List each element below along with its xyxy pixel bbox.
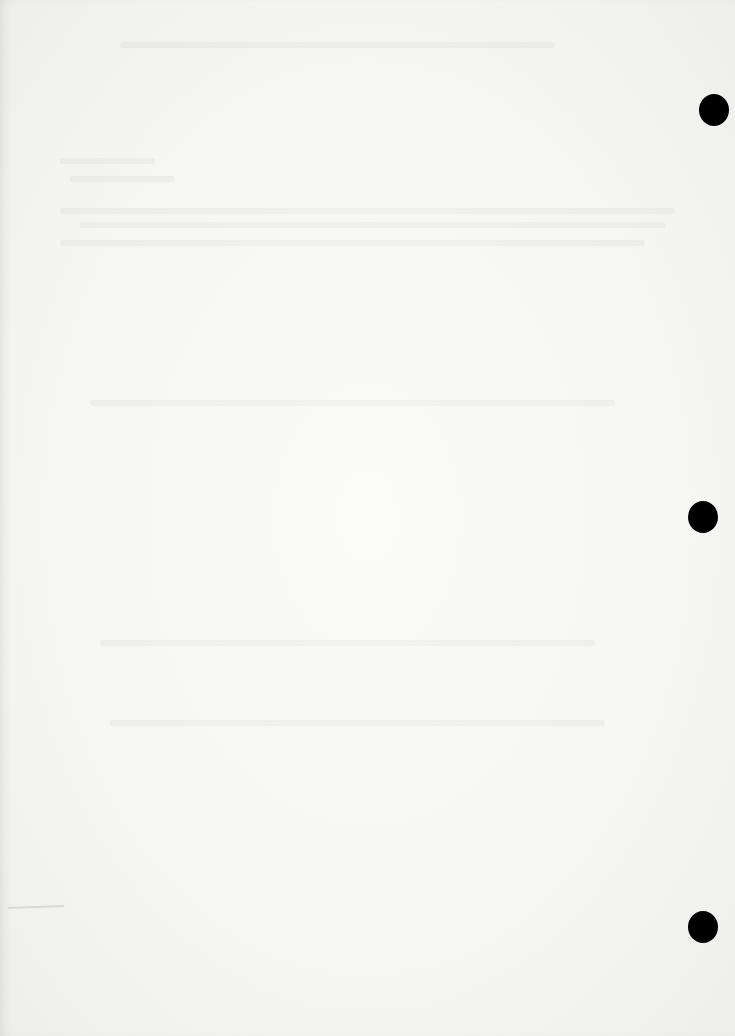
show-through-line (60, 158, 155, 164)
show-through-line (60, 240, 645, 246)
punch-hole-bottom (688, 911, 718, 943)
punch-hole-middle (688, 501, 718, 533)
show-through-line (100, 640, 595, 646)
show-through-line (110, 720, 605, 726)
show-through-line (70, 176, 175, 182)
show-through-line (120, 42, 555, 48)
scanned-page (0, 0, 735, 1036)
show-through-line (80, 222, 665, 228)
show-through-line (90, 400, 615, 406)
punch-hole-top (699, 94, 729, 126)
show-through-line (60, 208, 675, 214)
paper-fold-mark (8, 905, 64, 909)
